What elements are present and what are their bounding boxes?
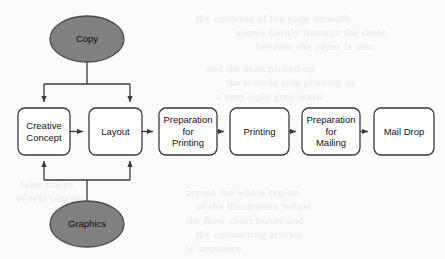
connector-graphics-branch — [44, 161, 130, 201]
flowchart-svg — [0, 0, 445, 259]
node-graphics[interactable] — [50, 201, 124, 247]
node-printing[interactable] — [230, 108, 289, 155]
node-mail-drop[interactable] — [374, 108, 434, 155]
node-preparation-for-printing[interactable] — [159, 108, 217, 155]
node-preparation-for-mailing[interactable] — [302, 108, 360, 155]
node-copy[interactable] — [50, 16, 124, 62]
node-layout[interactable] — [89, 108, 142, 155]
connector-copy-branch — [44, 62, 130, 102]
node-creative-concept[interactable] — [18, 108, 70, 155]
flowchart-canvas: the contents of the page beneathshows fa… — [0, 0, 445, 259]
